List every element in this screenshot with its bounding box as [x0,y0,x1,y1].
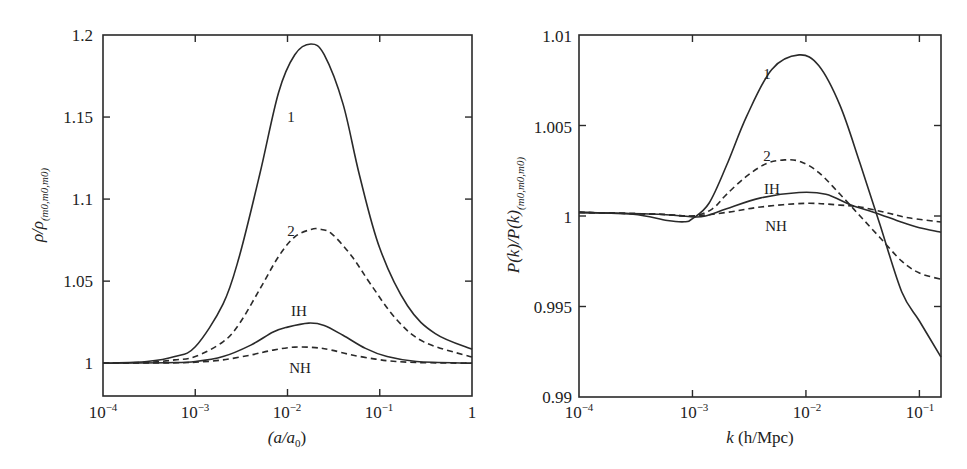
left-xtick-label: 10−1 [365,401,394,422]
right-chart: 0.99 0.995 1 1.005 1.01 10−4 10−3 10−2 1… [504,27,941,447]
left-ytick-label: 1.05 [63,272,93,291]
left-ytick-label: 1.15 [63,108,93,127]
left-ytick-label: 1.2 [72,26,93,45]
left-xtick-label: 10−2 [273,401,302,422]
right-ytick-label: 1.005 [534,118,572,137]
left-ytick-label: 1.1 [72,190,93,209]
left-xtick-label: 10−3 [181,401,210,422]
left-curves [103,44,472,363]
left-ytick-label: 1 [85,354,94,373]
left-yaxis-label: ρ/ρ(m0,m0,m0) [28,168,51,244]
right-xtick-label: 10−4 [565,401,594,422]
curve-2 [103,229,472,364]
right-xtick-label: 10−3 [680,401,709,422]
left-chart: 1 1.05 1.1 1.15 1.2 10−4 10−3 10−2 10−1 … [28,26,476,449]
right-xtick-label: 10−2 [793,401,822,422]
right-ytick-label: 1.01 [542,27,572,46]
left-ticks [103,35,472,396]
right-curves [579,55,941,357]
left-curve-label-2: 2 [287,223,295,239]
left-xaxis-label: (a/a0) [268,428,307,449]
right-xaxis-label: k (h/Mpc) [726,428,794,447]
right-xtick-label: 10−1 [906,401,935,422]
curve-nh [579,203,941,222]
left-plot-frame [103,35,472,396]
right-curve-label-2: 2 [763,148,771,164]
curve-ih [579,192,941,232]
right-curve-label-ih: IH [764,181,780,197]
left-xtick-label: 1 [468,403,477,422]
right-curve-label-1: 1 [763,66,771,82]
right-ytick-label: 0.995 [534,298,572,317]
left-xtick-label: 10−4 [89,401,118,422]
curve-1 [579,55,941,357]
right-yaxis-label: P(k)/P(k)(m0,m0,m0) [504,156,527,274]
figure: 1 1.05 1.1 1.15 1.2 10−4 10−3 10−2 10−1 … [0,0,967,469]
right-ytick-label: 1 [564,208,573,227]
left-curve-label-ih: IH [291,303,307,319]
curve-2 [579,160,941,280]
left-curve-label-nh: NH [289,360,311,376]
curve-1 [103,44,472,363]
curve-ih [103,323,472,363]
left-curve-label-1: 1 [287,109,295,125]
right-curve-label-nh: NH [765,218,787,234]
